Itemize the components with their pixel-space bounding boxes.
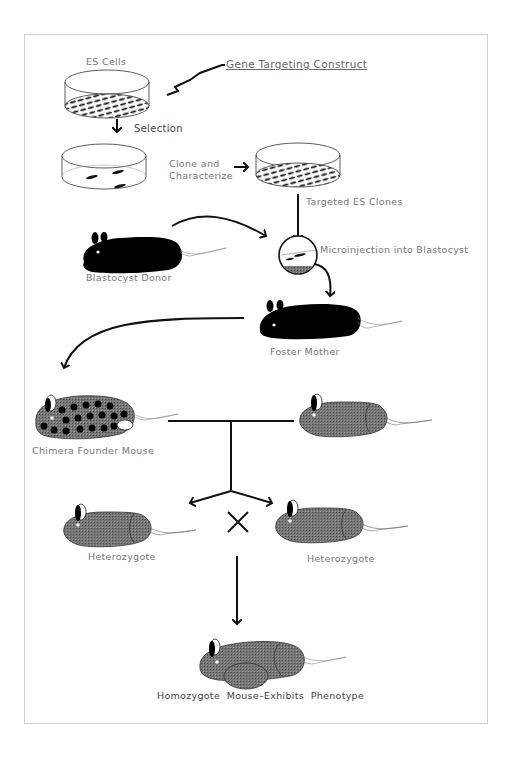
label-gene-targeting-construct: Gene Targeting Construct <box>226 58 367 70</box>
selection-dish <box>62 144 146 189</box>
foster-to-chimera-arrow <box>64 318 244 368</box>
blastocyst-donor-mouse <box>83 232 226 273</box>
cross-connector <box>168 421 294 503</box>
wildtype-mate-mouse <box>300 394 432 437</box>
label-foster-mother: Foster Mother <box>270 346 340 357</box>
heterozygote-right-mouse <box>276 500 408 543</box>
label-clone-and: Clone and <box>169 158 220 169</box>
label-homozygote: Homozygote Mouse–Exhibits Phenotype <box>157 690 364 701</box>
homozygote-mouse <box>200 639 346 689</box>
chimera-founder-mouse <box>36 395 178 439</box>
gene-construct-zigzag <box>167 65 225 95</box>
targeted-clones-dish <box>256 143 340 187</box>
label-characterize: Characterize <box>169 170 233 181</box>
cross-symbol <box>228 512 248 532</box>
foster-mother-mouse <box>260 300 402 339</box>
label-heterozygote-right: Heterozygote <box>307 553 375 564</box>
diagram-canvas <box>0 0 510 765</box>
label-selection: Selection <box>134 123 183 134</box>
label-microinjection: Microinjection into Blastocyst <box>320 244 468 255</box>
heterozygote-left-mouse <box>64 504 196 547</box>
donor-to-blastocyst-arrow <box>172 217 266 236</box>
label-blastocyst-donor: Blastocyst Donor <box>86 272 172 283</box>
label-es-cells: ES Cells <box>86 56 126 67</box>
label-chimera-founder: Chimera Founder Mouse <box>32 445 154 456</box>
blastocyst-circle <box>279 236 317 274</box>
blastocyst-to-foster-arrow <box>314 264 330 296</box>
label-targeted-es-clones: Targeted ES Clones <box>306 196 403 207</box>
label-heterozygote-left: Heterozygote <box>88 551 156 562</box>
es-cells-dish <box>65 70 149 118</box>
